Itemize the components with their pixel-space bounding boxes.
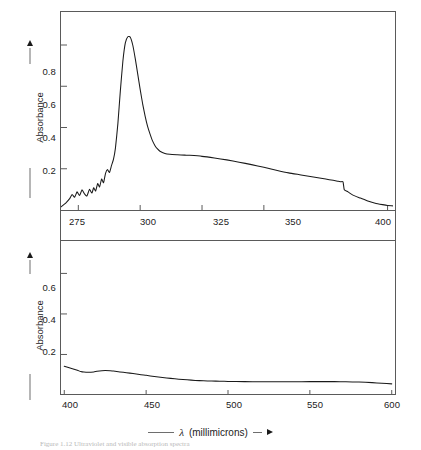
xaxis-left-rule <box>148 432 174 433</box>
bottom-xtick-400: 400 <box>62 399 78 410</box>
xaxis-units-label: (millimicrons) <box>189 427 248 438</box>
top-xtick-350: 350 <box>285 216 301 227</box>
bottom-yaxis-lower-rule <box>30 374 31 400</box>
bottom-spectrum-plot <box>61 241 395 395</box>
top-spectrum-svg <box>61 12 395 210</box>
bottom-ytick-0-6: 0.6 <box>42 282 56 293</box>
top-spectrum-plot <box>61 12 395 210</box>
top-yaxis-label: Absorbance <box>34 70 45 166</box>
top-ytick-0-6: 0.6 <box>42 99 56 110</box>
bottom-yaxis-arrow-icon <box>27 252 33 258</box>
bottom-xtick-550: 550 <box>307 399 323 410</box>
top-yaxis-arrow-icon <box>27 40 33 46</box>
top-xtick-325: 325 <box>213 216 229 227</box>
top-yaxis-title-group: Absorbance <box>22 40 38 200</box>
bottom-xtick-500: 500 <box>226 399 242 410</box>
absorption-spectra-figure: 0.8 0.6 0.4 0.2 0.6 0.4 0.2 275 300 325 … <box>0 0 421 450</box>
bottom-xtick-450: 450 <box>144 399 160 410</box>
top-xtick-300: 300 <box>140 216 156 227</box>
top-ytick-0-2: 0.2 <box>42 165 56 176</box>
bottom-spectrum-svg <box>61 241 395 395</box>
bottom-axis-ticks <box>61 273 392 395</box>
figure-caption: Figure 1.12 Ultraviolet and visible abso… <box>40 440 400 448</box>
top-absorbance-curve <box>61 36 393 206</box>
top-ytick-0-4: 0.4 <box>42 132 56 143</box>
xaxis-right-rule <box>253 432 262 433</box>
lambda-symbol: λ <box>179 426 184 438</box>
top-axis-ticks <box>61 45 388 210</box>
xaxis-arrow-icon <box>267 429 273 435</box>
top-panel-axis-line <box>60 210 396 211</box>
bottom-absorbance-curve <box>64 366 391 384</box>
top-yaxis-lower-rule <box>30 168 31 198</box>
bottom-ytick-labels: 0.6 0.4 0.2 <box>18 0 56 1</box>
xaxis-title-row: λ (millimicrons) <box>0 424 421 440</box>
bottom-ytick-0-2: 0.2 <box>42 346 56 357</box>
top-xtick-275: 275 <box>69 216 85 227</box>
bottom-xtick-600: 600 <box>384 399 400 410</box>
bottom-ytick-0-4: 0.4 <box>42 314 56 325</box>
bottom-yaxis-title-group: Absorbance <box>22 252 38 402</box>
top-ytick-0-8: 0.8 <box>42 66 56 77</box>
bottom-yaxis-upper-rule <box>30 260 31 274</box>
top-xtick-400: 400 <box>375 216 391 227</box>
bottom-yaxis-label: Absorbance <box>34 278 45 374</box>
top-yaxis-upper-rule <box>30 48 31 64</box>
